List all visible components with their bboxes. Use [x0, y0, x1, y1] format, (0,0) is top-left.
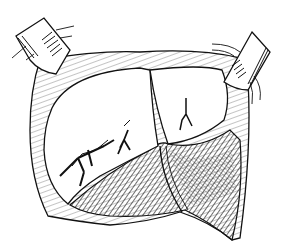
illustration-svg: [0, 0, 285, 249]
surgical-illustration: [0, 0, 285, 249]
